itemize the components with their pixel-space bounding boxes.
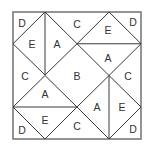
region-labels: DEACEDACBCAAEECDD (18, 16, 137, 136)
region-label-d-top-right: D (129, 16, 137, 28)
region-label-a-top-left: A (53, 38, 60, 50)
quilt-pattern-diagram: DEACEDACBCAAEECDD (0, 0, 150, 147)
region-label-e-top-left: E (28, 38, 35, 50)
region-label-c-top: C (73, 18, 81, 30)
pattern-line (45, 44, 77, 75)
region-label-e-top-right: E (104, 24, 111, 36)
region-label-e-bottom-right: E (118, 101, 125, 113)
region-label-c-left: C (21, 70, 29, 82)
region-label-a-bottom-right: A (93, 101, 100, 113)
region-label-e-bottom-left: E (41, 114, 48, 126)
pattern-line (13, 76, 45, 108)
region-label-c-right: C (124, 70, 132, 82)
region-label-c-bottom: C (73, 120, 81, 132)
region-label-d-bottom-right: D (129, 123, 137, 135)
region-label-b-center: B (73, 70, 80, 82)
region-label-d-bottom-left: D (18, 124, 26, 136)
pattern-line (45, 12, 77, 44)
region-label-d-top-left: D (18, 17, 26, 29)
pattern-line (45, 76, 77, 108)
region-label-a-bottom-left: A (41, 88, 48, 100)
pattern-line (45, 107, 77, 139)
region-label-a-top-right: A (104, 52, 111, 64)
